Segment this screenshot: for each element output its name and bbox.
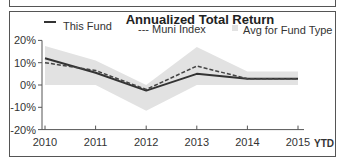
y-tick-label: -10%: [10, 101, 36, 113]
chart-svg: 20%10%0%-10%-20%201020112012201320142015…: [0, 0, 348, 163]
x-tick-label: 2011: [84, 136, 108, 148]
x-axis-ytd-label: YTD: [314, 138, 334, 149]
legend: This Fund --- Muni Index Avg for Fund Ty…: [44, 20, 332, 36]
legend-band-swatch-icon: [232, 25, 238, 31]
x-tick-label: 2014: [235, 136, 259, 148]
y-tick-label: 0%: [20, 79, 36, 91]
legend-this-fund: This Fund: [63, 20, 112, 32]
y-tick-label: 20%: [14, 34, 36, 46]
legend-muni-index: --- Muni Index: [138, 23, 206, 35]
legend-avg-fund-type: Avg for Fund Type: [243, 24, 332, 36]
y-tick-label: -20%: [10, 124, 36, 136]
y-tick-label: 10%: [14, 57, 36, 69]
x-tick-label: 2012: [134, 136, 158, 148]
x-tick-label: 2015: [286, 136, 310, 148]
x-tick-label: 2010: [33, 136, 57, 148]
x-tick-label: 2013: [185, 136, 209, 148]
